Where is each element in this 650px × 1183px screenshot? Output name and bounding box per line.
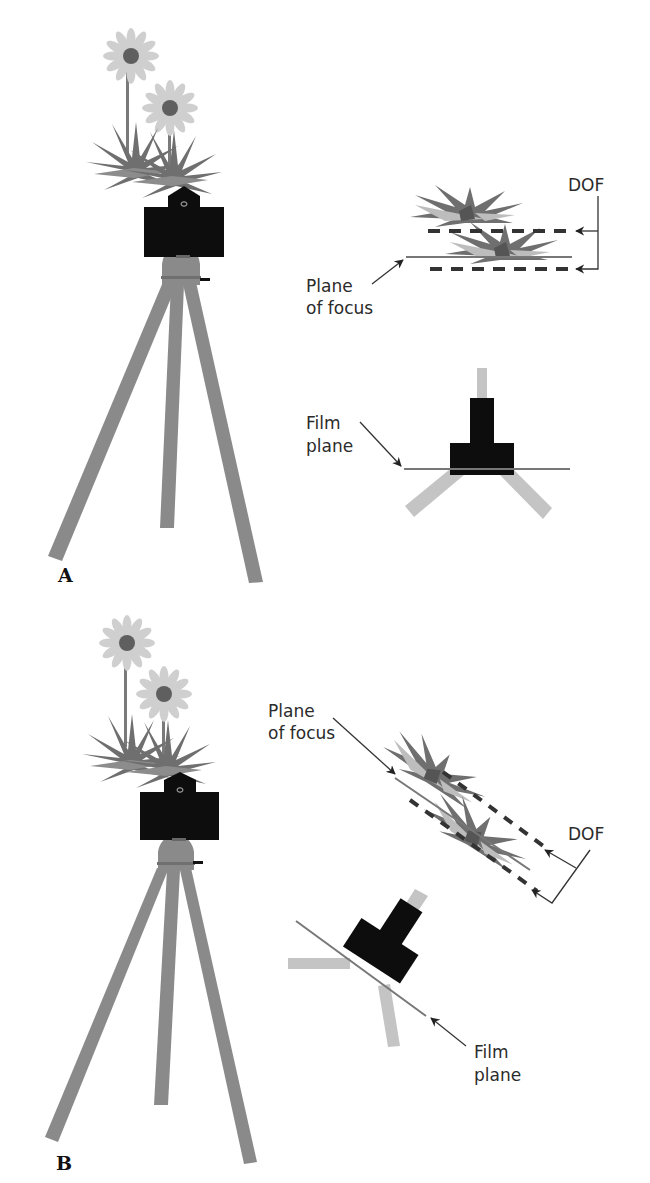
tripod-a (48, 240, 263, 583)
camera-a (144, 186, 224, 258)
film-plane-view-b: Film plane (288, 886, 521, 1085)
dof-label-b: DOF (568, 824, 604, 844)
panel-label-a: A (57, 564, 73, 586)
panel-b: DOF Plane of focus Film plane B (45, 615, 604, 1174)
flowers-b (82, 615, 216, 788)
plane-of-focus-label-b-1: Plane (268, 701, 315, 721)
plane-of-focus-label-b-2: of focus (268, 723, 335, 743)
film-plane-label-b-1: Film (474, 1042, 509, 1062)
plane-of-focus-label-a-2: of focus (306, 298, 373, 318)
depth-of-field-diagram: DOF Plane of focus Film plane A (0, 0, 650, 1183)
plane-of-focus-label-a-1: Plane (306, 276, 353, 296)
flowers-a (86, 28, 222, 198)
tripod-b (45, 832, 257, 1164)
dof-label-a: DOF (568, 175, 604, 195)
film-plane-label-a-1: Film (306, 413, 341, 433)
dof-side-view-a: DOF Plane of focus (306, 175, 604, 318)
film-plane-label-a-2: plane (306, 436, 353, 456)
film-plane-view-a: Film plane (306, 368, 570, 519)
film-plane-label-b-2: plane (474, 1065, 521, 1085)
panel-a: DOF Plane of focus Film plane A (48, 28, 604, 586)
panel-label-b: B (56, 1152, 72, 1174)
dof-side-view-b: DOF Plane of focus (268, 701, 604, 903)
